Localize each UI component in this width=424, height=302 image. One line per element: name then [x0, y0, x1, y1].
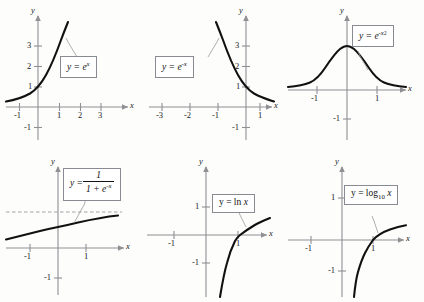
callout-ln-x: y = ln x	[212, 194, 255, 213]
equation-fraction: 11 + e-x	[83, 171, 114, 195]
fraction-denominator: 1 + e	[86, 184, 106, 194]
leader-line	[372, 216, 378, 233]
fraction-numerator: 1	[83, 171, 114, 181]
x-tick-1: 1	[57, 111, 61, 120]
equation-exponent: -x	[182, 60, 187, 67]
equation-subscript: 10	[378, 193, 385, 200]
panel-log10-x-plot	[282, 145, 424, 302]
x-tick--3: -3	[156, 111, 163, 120]
y-axis-arrow	[339, 166, 345, 172]
y-axis-arrow	[344, 15, 350, 21]
panel-logistic: x y -1 1 -1 y =11 + e-x	[0, 145, 141, 302]
x-axis-label: x	[274, 101, 278, 110]
y-axis-label: y	[199, 157, 203, 166]
y-tick-1: 1	[331, 193, 335, 202]
curve-log10-x	[354, 225, 406, 297]
y-tick--1: -1	[333, 114, 340, 123]
curve-exp-x	[6, 22, 68, 102]
y-tick-3: 3	[235, 41, 239, 50]
x-axis-arrow	[266, 104, 272, 110]
x-tick--1: -1	[212, 111, 219, 120]
x-axis-arrow	[400, 87, 406, 93]
x-tick-2: 2	[78, 111, 82, 120]
x-axis-arrow	[122, 104, 128, 110]
equation-text: y = e	[162, 62, 182, 72]
equation-lhs: y =	[70, 178, 83, 188]
y-axis-label: y	[340, 6, 344, 15]
panel-log10-x: x y -1 1 1 -1 y = log10 x	[282, 145, 424, 302]
panel-ln-x-plot	[141, 145, 282, 302]
equation-text: y = e	[67, 62, 87, 72]
callout-gaussian: y = e-x2	[352, 25, 394, 47]
y-tick--1: -1	[24, 123, 31, 132]
x-tick-1: 1	[371, 244, 375, 253]
y-axis-label: y	[51, 157, 55, 166]
equation-exponent: x	[87, 60, 90, 67]
leader-line	[66, 38, 77, 57]
x-tick-1: 1	[375, 94, 379, 103]
equation-text: y = ln	[219, 197, 241, 207]
y-tick--1: -1	[328, 266, 335, 275]
callout-logistic: y =11 + e-x	[63, 168, 121, 201]
x-tick-1: 1	[236, 239, 240, 248]
x-axis-label: x	[130, 101, 134, 110]
y-axis-arrow	[55, 166, 61, 172]
x-axis-arrow	[261, 232, 267, 238]
leader-line	[358, 51, 368, 70]
equation-arg: x	[387, 188, 391, 198]
x-axis-arrow	[118, 245, 124, 251]
fraction-denominator-exponent: -x	[106, 182, 111, 189]
y-tick-1: 1	[236, 82, 240, 91]
x-tick--1: -1	[311, 94, 318, 103]
y-tick--1: -1	[232, 123, 239, 132]
x-tick--2: -2	[184, 111, 191, 120]
x-tick-3: 3	[98, 111, 102, 120]
axes	[147, 167, 267, 297]
y-axis-label: y	[335, 157, 339, 166]
callout-log10-x: y = log10 x	[344, 185, 398, 205]
curve-ln-x	[220, 218, 270, 297]
x-axis-label: x	[126, 242, 130, 251]
curve-logistic	[6, 216, 118, 240]
y-axis-arrow	[243, 15, 249, 21]
equation-arg: x	[244, 197, 248, 207]
y-tick-3: 3	[27, 41, 31, 50]
callout-exp-neg-x: y = e-x	[155, 56, 194, 78]
y-tick-1: 1	[195, 202, 199, 211]
x-tick--1: -1	[14, 111, 21, 120]
x-axis-label: x	[408, 84, 412, 93]
x-tick--1: -1	[24, 252, 31, 261]
panel-ln-x: x y -1 1 1 -1 y = ln x	[141, 145, 282, 302]
curve-exp-neg-x	[216, 22, 274, 102]
panel-gaussian-plot	[282, 0, 424, 145]
x-tick--1: -1	[168, 239, 175, 248]
panel-exp-x: x y -1 1 2 3 3 2 1 -1 y = ex	[0, 0, 141, 145]
y-tick-2: 2	[235, 62, 239, 71]
y-tick--1: -1	[44, 273, 51, 282]
panel-gaussian: x y -1 1 -1 y = e-x2	[282, 0, 424, 145]
equation-exponent-power: 2	[384, 30, 387, 36]
x-tick-1: 1	[84, 252, 88, 261]
equation-text: y = log	[351, 188, 378, 198]
x-tick--1: -1	[305, 244, 312, 253]
y-tick-1: 1	[28, 82, 32, 91]
leader-line	[74, 199, 86, 223]
y-axis-arrow	[203, 166, 209, 172]
y-tick-2: 2	[27, 62, 31, 71]
y-tick--1: -1	[192, 258, 199, 267]
callout-exp-x: y = ex	[60, 56, 97, 78]
y-axis-label: y	[239, 6, 243, 15]
equation-text: y = e	[359, 31, 379, 41]
y-axis-arrow	[35, 15, 41, 21]
x-axis-label: x	[406, 234, 410, 243]
y-axis-label: y	[31, 6, 35, 15]
figure-grid: x y -1 1 2 3 3 2 1 -1 y = ex	[0, 0, 424, 302]
x-axis-label: x	[269, 229, 273, 238]
leader-line	[208, 38, 219, 57]
panel-exp-neg-x: x y -3 -2 -1 1 3 2 1 -1 y = e-x	[141, 0, 282, 145]
x-axis-arrow	[398, 237, 404, 243]
x-tick-1: 1	[258, 111, 262, 120]
